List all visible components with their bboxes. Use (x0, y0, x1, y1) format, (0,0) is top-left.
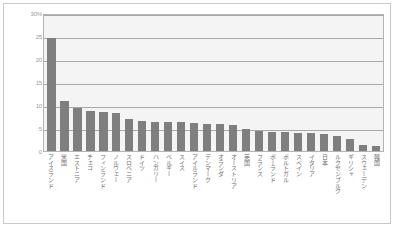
bar (229, 125, 237, 151)
x-axis-slot: イタリア (305, 154, 318, 224)
bar-slot (71, 15, 84, 151)
bar (151, 122, 159, 151)
x-axis-slot: 英国 (239, 154, 252, 224)
bar (47, 38, 55, 151)
bar (346, 139, 354, 151)
bar-series (44, 15, 383, 151)
x-axis-slot: ベルギー (161, 154, 174, 224)
x-axis-tick-label: デンマーク (204, 154, 211, 183)
x-axis-tick-label: ノルウェー (112, 154, 119, 183)
x-axis-tick-label: チェコ (86, 154, 93, 171)
x-axis-slot: 米国 (57, 154, 70, 224)
bar-slot (291, 15, 304, 151)
x-axis-tick-label: フィンランド (99, 154, 106, 188)
x-axis-slot: ドイツ (135, 154, 148, 224)
x-axis-tick-label: スロベニア (125, 154, 132, 183)
bar-slot (162, 15, 175, 151)
bar (216, 124, 224, 151)
x-axis-tick-label: オーストリア (230, 154, 237, 188)
bar (73, 108, 81, 151)
x-axis: アイスランド米国エストニアチェコフィンランドノルウェースロベニアドイツハンガリー… (43, 154, 384, 224)
x-axis-tick-label: ハンガリー (152, 154, 159, 183)
bar (307, 133, 315, 151)
bar-slot (227, 15, 240, 151)
bar-slot (369, 15, 382, 151)
bar (294, 133, 302, 151)
bar-slot (149, 15, 162, 151)
plot-area (43, 14, 384, 152)
bar-slot (97, 15, 110, 151)
bar (255, 131, 263, 151)
bar (320, 134, 328, 151)
x-axis-slot: オーストリア (226, 154, 239, 224)
x-axis-slot: アイルランド (187, 154, 200, 224)
x-axis-slot: スイス (174, 154, 187, 224)
y-axis-tick-label: 15 (12, 80, 42, 87)
x-axis-slot: スペイン (292, 154, 305, 224)
x-axis-tick-label: ギリシャ (347, 154, 354, 177)
bar-slot (330, 15, 343, 151)
bar-slot (356, 15, 369, 151)
x-axis-slot: エストニア (70, 154, 83, 224)
bar-slot (188, 15, 201, 151)
x-axis-slot: スウェーデン (357, 154, 370, 224)
y-axis-tick-label: 20 (12, 57, 42, 64)
x-axis-tick-label: ポーランド (269, 154, 276, 183)
bar-slot (58, 15, 71, 151)
x-axis-slot: 韓国 (370, 154, 383, 224)
x-axis-slot: ポルトガル (279, 154, 292, 224)
x-axis-tick-label: 英国 (243, 154, 250, 165)
bar-slot (240, 15, 253, 151)
x-axis-tick-label: オランダ (217, 154, 224, 177)
x-axis-tick-label: イタリア (308, 154, 315, 177)
y-axis-tick-label: 25 (12, 34, 42, 41)
x-axis-tick-label: エストニア (73, 154, 80, 183)
y-axis-tick-label: 5 (12, 126, 42, 133)
x-axis-tick-label: アイルランド (191, 154, 198, 188)
x-axis-slot: オランダ (213, 154, 226, 224)
x-axis-tick-label: 韓国 (373, 154, 380, 165)
x-axis-tick-label: スウェーデン (360, 154, 367, 188)
bar-slot (343, 15, 356, 151)
bar (164, 122, 172, 151)
bar-slot (201, 15, 214, 151)
x-axis-slot: アイスランド (44, 154, 57, 224)
bar-slot (123, 15, 136, 151)
bar-slot (265, 15, 278, 151)
chart-figure: 051015202530% アイスランド米国エストニアチェコフィンランドノルウェ… (0, 0, 394, 227)
x-axis-tick-label: ドイツ (138, 154, 145, 171)
bar-slot (84, 15, 97, 151)
x-axis-slot: フィンランド (96, 154, 109, 224)
x-axis-slot: デンマーク (200, 154, 213, 224)
bar (86, 111, 94, 151)
x-axis-tick-label: フランス (256, 154, 263, 177)
bar (99, 112, 107, 151)
x-axis-slot: ハンガリー (148, 154, 161, 224)
x-axis-slot: スロベニア (122, 154, 135, 224)
x-axis-slot: ギリシャ (344, 154, 357, 224)
bar (138, 121, 146, 151)
x-axis-slot: フランス (253, 154, 266, 224)
x-axis-tick-label: スイス (178, 154, 185, 171)
x-axis-tick-label: スペイン (295, 154, 302, 177)
bar-slot (304, 15, 317, 151)
y-axis: 051015202530% (12, 8, 42, 158)
x-axis-slot: ノルウェー (109, 154, 122, 224)
x-axis-tick-label: ポルトガル (282, 154, 289, 183)
bar-slot (136, 15, 149, 151)
bar-slot (317, 15, 330, 151)
bar-slot (278, 15, 291, 151)
bar (333, 136, 341, 151)
x-axis-tick-label: 米国 (60, 154, 67, 165)
bar-slot (110, 15, 123, 151)
x-axis-tick-label: アイスランド (47, 154, 54, 188)
bar-slot (253, 15, 266, 151)
bar (177, 122, 185, 151)
x-axis-slot: ルクセンブルク (331, 154, 344, 224)
bar (125, 119, 133, 151)
x-axis-tick-label: 日本 (321, 154, 328, 165)
x-axis-slot: ポーランド (266, 154, 279, 224)
y-axis-tick-label: 0 (12, 149, 42, 156)
bar (281, 132, 289, 151)
bar-slot (45, 15, 58, 151)
